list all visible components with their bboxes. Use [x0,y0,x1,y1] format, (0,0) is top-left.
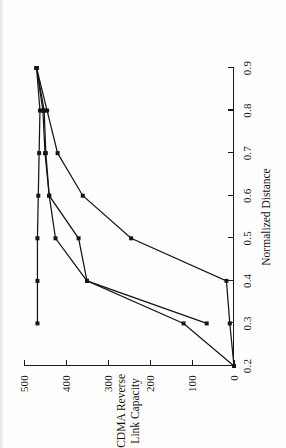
series-marker [35,279,39,283]
x-tick-label: 0.3 [241,316,253,330]
series-marker [56,151,60,155]
series-marker [44,151,48,155]
y-axis-title: CDMA Reverse Link Capacity [115,374,142,448]
series-marker [182,321,186,325]
series-line [37,68,234,366]
series-marker [129,236,133,240]
rotated-figure-wrapper: 0.20.30.40.50.60.70.80.9 010020030040050… [0,0,286,448]
x-tick-label: 0.8 [241,103,253,117]
series-marker [37,151,41,155]
series-marker [47,194,51,198]
series-layer [24,68,234,366]
y-tick-label: 400 [60,375,72,392]
series-marker [36,194,40,198]
figure-page: 0.20.30.40.50.60.70.80.9 010020030040050… [0,0,286,448]
x-tick-label: 0.4 [241,274,253,288]
y-tick-label: 500 [18,375,30,392]
series-line [37,68,207,323]
series-marker [35,66,39,70]
y-axis-title-line-2: Link Capacity [129,374,143,448]
x-tick-label: 0.5 [241,231,253,245]
series-marker [205,321,209,325]
x-tick-label: 0.2 [241,359,253,373]
series-marker [35,321,39,325]
y-axis-title-line-1: CDMA Reverse [115,374,129,448]
y-tick-label: 300 [102,375,114,392]
plot-area: 0.20.30.40.50.60.70.80.9 010020030040050… [24,68,234,366]
series-marker [228,321,232,325]
series-marker [81,194,85,198]
x-axis-title: Normalized Distance [260,168,272,265]
x-tick-label: 0.9 [241,61,253,75]
series-marker [54,236,58,240]
series-marker [35,236,39,240]
y-tick-label: 0 [228,375,240,381]
series-marker [85,279,89,283]
series-marker [232,364,236,368]
series-marker [77,236,81,240]
x-tick-label: 0.7 [241,146,253,160]
series-marker [224,279,228,283]
x-tick-label: 0.6 [241,189,253,203]
y-tick-label: 200 [144,375,156,392]
series-marker [45,109,49,113]
series-line [37,68,234,366]
y-tick-label: 100 [186,375,198,392]
